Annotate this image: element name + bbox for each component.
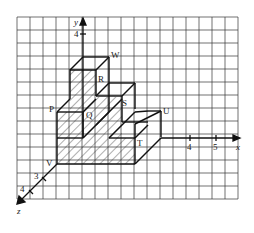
point-label-w: W [111,50,120,60]
x-axis-arrowhead [233,135,240,141]
diagram-canvas: y 4 4 5 x 3 4 z W R P Q S U T V [0,0,254,233]
x-axis-label: x [235,142,240,152]
point-label-u: U [163,106,170,116]
point-label-t: T [137,138,143,148]
z-axis-label: z [16,206,21,216]
y-axis-arrowhead [80,18,86,25]
point-label-p: P [49,104,54,114]
point-label-q: Q [86,110,93,120]
point-label-v: V [46,158,53,168]
point-label-s: S [122,98,127,108]
y-axis-label: y [73,17,78,27]
x-tick-label-4: 4 [187,142,192,152]
y-tick-label-4: 4 [74,29,79,39]
z-tick-label-3: 3 [34,171,39,181]
z-tick-label-4: 4 [20,184,25,194]
z-axis [21,164,57,200]
x-tick-label-5: 5 [213,142,218,152]
point-label-r: R [98,74,104,84]
